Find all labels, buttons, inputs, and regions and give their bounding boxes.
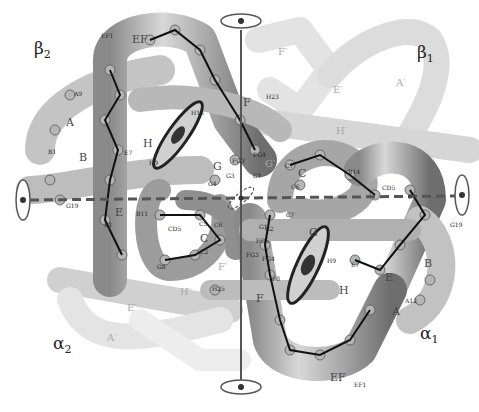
residue-label: FG4 [253,152,266,158]
chain-symbol: α [53,333,64,353]
residue-label: C7 [286,212,294,218]
helix-label: C [200,233,208,244]
helix-label: E [115,207,123,218]
residue-label: CD5 [382,185,395,191]
residue-label: H23 [266,94,279,100]
residue-label: A9 [74,91,82,97]
ghost-helix-label: A′ [396,78,406,88]
residue-label: A12 [405,298,417,304]
ghost-helix-label: E′ [127,303,137,313]
residue-label: H9 [149,160,158,166]
chain-subscript: 1 [431,333,438,346]
residue-label: E7 [351,262,359,268]
residue-label: G3 [226,173,235,179]
helix-label: EF [132,34,148,45]
helix-label: G [309,227,318,238]
helix-label: A [66,117,74,128]
residue-label: CD5 [168,226,181,232]
residue-label: B14 [348,169,360,175]
chain-symbol: β [34,38,44,58]
chain-subscript: 1 [427,52,434,65]
residue-label: FG3 [246,252,259,258]
chain-subscript: 2 [44,48,51,61]
residue-label: B1 [48,149,56,155]
helix-label: F [243,97,251,108]
ghost-helix-label: A′ [107,333,117,343]
residue-label: C2 [200,249,208,255]
residue-label: EF1 [354,382,366,388]
helix-label: B [424,258,432,269]
ghost-helix-label: F′ [218,262,227,272]
residue-label: C6 [291,184,299,190]
ghost-helix-label: H′ [180,287,191,297]
chain-symbol: β [417,42,427,62]
residue-label: F8 [272,276,280,282]
chain-label-beta1: β1 [417,44,434,64]
residue-label: H25 [212,286,225,292]
residue-label: FG3 [232,158,245,164]
ghost-helix-label: F′ [278,47,287,57]
residue-label: FG5 [256,238,269,244]
residue-label: G8 [157,264,166,270]
alpha1-subunit [210,153,441,364]
residue-label: G2 [265,226,274,232]
residue-label: C7 [285,163,293,169]
residue-label: E1 [408,194,416,200]
residue-label: B11 [136,211,148,217]
helix-label: F [256,293,264,304]
residue-label: FG4 [262,256,275,262]
helix-label: B [79,152,87,163]
residue-label: EF1 [101,33,113,39]
chain-label-beta2: β2 [34,40,51,60]
helix-label: EF [330,372,346,383]
ghost-helix-label: G′ [265,159,275,169]
helix-label: E [385,272,393,283]
chain-label-alpha1: α1 [420,325,438,345]
helix-label: H [339,285,349,296]
ghost-helix-label: E′ [333,85,343,95]
residue-label: G19 [66,203,78,209]
ghost-helix-label: H′ [336,126,347,136]
helix-label: H [143,138,153,149]
helix-label: G [213,161,222,172]
chain-label-alpha2: α2 [53,335,71,355]
residue-label: E7 [124,150,132,156]
residue-label: G4 [208,181,217,187]
hemoglobin-diagram: β2 β1 α2 α1 EFFHBAGECCGHEBAFEF F′E′A′H′G… [0,0,479,412]
residue-label: G19 [450,222,462,228]
residue-label: E1 [104,222,112,228]
helix-label: C [298,168,306,179]
chain-subscript: 2 [64,343,71,356]
residue-label: C6 [214,222,222,228]
chain-symbol: α [420,323,431,343]
helix-label: A [392,306,400,317]
residue-label: H15 [191,110,204,116]
residue-label: H9 [327,258,336,264]
residue-label: C5 [199,221,207,227]
residue-label: G1 [253,173,262,179]
